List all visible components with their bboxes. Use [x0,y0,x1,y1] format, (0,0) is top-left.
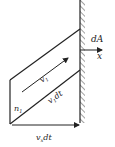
area-label: dA [91,34,104,44]
velocity-label: v1 [38,73,50,86]
velocity-arrow [22,58,68,92]
flux-diagram: dA x v1 v1dt n1 vxdt [0,0,115,147]
axis-label: x [97,51,102,61]
bottom-label: vxdt [36,133,52,143]
slant-label: v1dt [46,88,66,106]
normal-label: n1 [14,104,22,114]
wall [80,0,85,123]
